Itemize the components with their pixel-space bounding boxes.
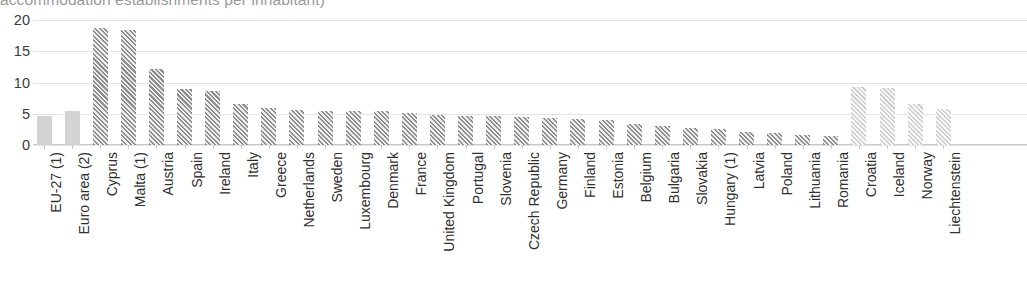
x-tick: [325, 145, 326, 149]
y-tick-label-15: 15: [2, 43, 30, 59]
y-tick-label-20: 20: [2, 12, 30, 28]
y-axis: 05101520: [0, 0, 30, 165]
bar: [37, 116, 52, 145]
x-axis-category-label: Czech Republic: [527, 152, 541, 250]
x-axis-category-label: Iceland: [892, 152, 906, 197]
bar: [374, 111, 389, 145]
bar: [880, 88, 895, 146]
bar: [318, 111, 333, 145]
x-tick: [522, 145, 523, 149]
bar: [711, 129, 726, 145]
x-tick: [381, 145, 382, 149]
x-tick: [213, 145, 214, 149]
x-tick: [100, 145, 101, 149]
bar: [402, 113, 417, 145]
bar: [627, 124, 642, 145]
x-tick: [859, 145, 860, 149]
x-axis-category-label: Norway: [920, 152, 934, 199]
bar: [149, 69, 164, 145]
x-axis-labels: EU-27 (1)Euro area (2)CyprusMalta (1)Aus…: [33, 152, 1027, 287]
x-tick: [494, 145, 495, 149]
bar: [655, 126, 670, 145]
bar: [430, 115, 445, 145]
x-axis-category-label: Slovakia: [695, 152, 709, 205]
x-axis-category-label: Germany: [555, 152, 569, 210]
bar: [823, 136, 838, 145]
bar: [851, 87, 866, 145]
x-tick: [606, 145, 607, 149]
bars-container: [33, 20, 1027, 145]
x-axis-category-label: Netherlands: [302, 152, 316, 228]
bar: [570, 119, 585, 145]
bar: [936, 109, 951, 145]
x-tick: [915, 145, 916, 149]
x-tick: [747, 145, 748, 149]
x-axis-category-label: France: [414, 152, 428, 196]
x-axis-category-label: Euro area (2): [77, 152, 91, 234]
chart-title: accommodation establishments per inhabit…: [0, 0, 700, 9]
x-axis-category-label: Slovenia: [499, 152, 513, 206]
bar: [233, 104, 248, 145]
x-axis-category-label: Sweden: [330, 152, 344, 203]
bar: [542, 118, 557, 145]
bar: [767, 133, 782, 146]
x-axis-category-label: Latvia: [752, 152, 766, 189]
x-tick: [72, 145, 73, 149]
x-axis-ticks: [33, 145, 1027, 150]
x-axis-category-label: Austria: [161, 152, 175, 196]
x-tick: [718, 145, 719, 149]
x-tick: [241, 145, 242, 149]
x-tick: [437, 145, 438, 149]
x-tick: [887, 145, 888, 149]
bar: [458, 116, 473, 145]
x-tick: [44, 145, 45, 149]
x-axis-category-label: Luxembourg: [358, 152, 372, 230]
bar-chart: accommodation establishments per inhabit…: [0, 0, 1027, 287]
x-tick: [409, 145, 410, 149]
x-axis-category-label: Portugal: [471, 152, 485, 204]
x-axis-category-label: Belgium: [639, 152, 653, 203]
x-axis-category-label: Finland: [583, 152, 597, 198]
x-tick: [634, 145, 635, 149]
x-axis-category-label: Spain: [190, 152, 204, 188]
bar: [289, 110, 304, 145]
x-tick: [185, 145, 186, 149]
x-axis-category-label: Romania: [836, 152, 850, 208]
x-tick: [578, 145, 579, 149]
y-tick-label-10: 10: [2, 75, 30, 91]
x-axis-category-label: Croatia: [864, 152, 878, 197]
x-axis-category-label: Lithuania: [808, 152, 822, 209]
bar: [599, 120, 614, 145]
x-axis-category-label: Bulgaria: [667, 152, 681, 203]
bar: [795, 135, 810, 145]
x-axis-category-label: EU-27 (1): [49, 152, 63, 213]
x-axis-category-label: Italy: [246, 152, 260, 178]
x-axis-category-label: Cyprus: [105, 152, 119, 196]
x-tick: [775, 145, 776, 149]
bar: [683, 128, 698, 146]
bar: [486, 116, 501, 145]
x-axis-category-label: Malta (1): [133, 152, 147, 207]
x-axis-category-label: Ireland: [218, 152, 232, 195]
x-axis-category-label: Denmark: [386, 152, 400, 209]
bar: [514, 117, 529, 145]
x-tick: [297, 145, 298, 149]
x-axis-category-label: United Kingdom: [442, 152, 456, 252]
x-tick: [831, 145, 832, 149]
x-axis-category-label: Estonia: [611, 152, 625, 199]
bar: [346, 111, 361, 145]
x-axis-category-label: Greece: [274, 152, 288, 198]
bar: [121, 30, 136, 145]
x-tick: [353, 145, 354, 149]
bar: [205, 91, 220, 145]
x-axis-category-label: Hungary (1): [723, 152, 737, 226]
bar: [177, 89, 192, 145]
bar: [93, 28, 108, 145]
y-tick-label-0: 0: [2, 137, 30, 153]
x-tick: [269, 145, 270, 149]
x-tick: [690, 145, 691, 149]
x-tick: [550, 145, 551, 149]
x-tick: [128, 145, 129, 149]
bar: [908, 104, 923, 145]
x-tick: [803, 145, 804, 149]
